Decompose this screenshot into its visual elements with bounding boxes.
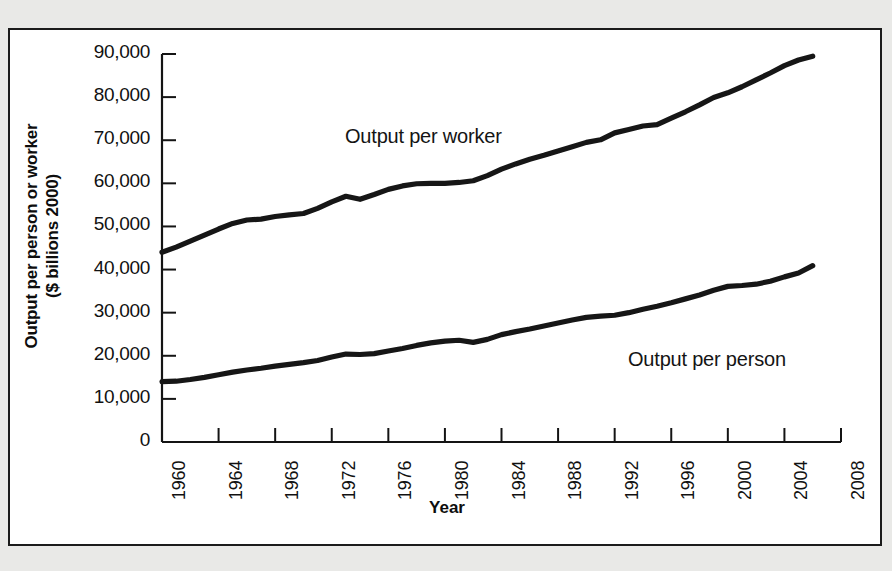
x-tick-label-5: 1980: [452, 461, 473, 500]
x-tick-label-3: 1972: [339, 461, 360, 500]
y-tick-label-7: 70,000: [58, 127, 150, 149]
y-tick-label-9: 90,000: [58, 41, 150, 63]
y-tick-label-2: 20,000: [58, 343, 150, 365]
y-tick-label-4: 40,000: [58, 257, 150, 279]
x-tick-label-4: 1976: [395, 461, 416, 500]
chart-plot-area: 010,00020,00030,00040,00050,00060,00070,…: [10, 30, 884, 548]
x-tick-label-12: 2008: [848, 461, 869, 500]
y-tick-label-8: 80,000: [58, 84, 150, 106]
y-tick-label-6: 60,000: [58, 170, 150, 192]
x-tick-label-1: 1964: [226, 461, 247, 500]
x-tick-label-8: 1992: [622, 461, 643, 500]
x-tick-label-6: 1984: [509, 461, 530, 500]
figure-panel: Output per person or worker ($ billions …: [8, 28, 882, 546]
x-tick-label-11: 2004: [791, 461, 812, 500]
series-label-output-per-person: Output per person: [628, 348, 786, 371]
y-tick-label-0: 0: [58, 429, 150, 451]
y-tick-label-3: 30,000: [58, 300, 150, 322]
y-tick-label-5: 50,000: [58, 213, 150, 235]
series-label-output-per-worker: Output per worker: [345, 125, 502, 148]
x-tick-label-9: 1996: [678, 461, 699, 500]
series-line-output-per-worker: [162, 56, 813, 252]
x-tick-label-7: 1988: [565, 461, 586, 500]
x-tick-label-10: 2000: [735, 461, 756, 500]
y-tick-label-1: 10,000: [58, 386, 150, 408]
x-tick-label-2: 1968: [282, 461, 303, 500]
x-tick-label-0: 1960: [169, 461, 190, 500]
